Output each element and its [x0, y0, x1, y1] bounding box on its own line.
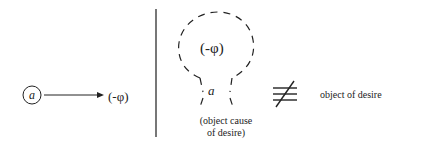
node-a-label: a [24, 89, 40, 101]
neck-a-label: a [208, 84, 215, 97]
arrow-right-icon [44, 92, 104, 98]
object-cause-caption: (object cause of desire) [184, 115, 268, 138]
caption-line-1: (object cause [184, 115, 268, 127]
caption-line-2: of desire) [184, 127, 268, 139]
minus-phi-label: (-φ) [108, 90, 129, 103]
not-equivalent-icon [270, 79, 300, 109]
dashed-shape [179, 12, 254, 110]
object-of-desire-label: object of desire [320, 90, 382, 100]
inner-minus-phi-label: (-φ) [200, 41, 224, 56]
